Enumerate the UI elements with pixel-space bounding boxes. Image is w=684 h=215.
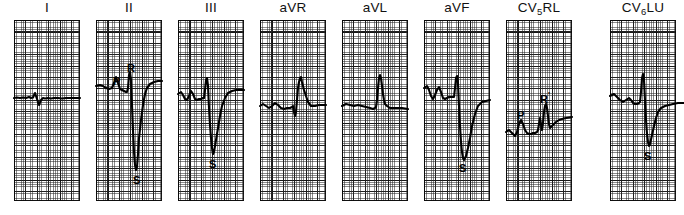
wave-label-text: R (127, 62, 135, 74)
ecg-waveform-path (506, 104, 572, 136)
ecg-trace (178, 20, 244, 201)
lead-label-text: aVL (363, 0, 388, 15)
lead-panel-cv5rl: CV5RLPR' (506, 0, 572, 215)
lead-label-text: CV (518, 0, 537, 15)
lead-panel-cv6lu: CV6LUS (610, 0, 676, 215)
ecg-trace (610, 20, 676, 201)
wave-label-text: P (517, 109, 524, 121)
lead-label-suffix: RL (542, 0, 560, 15)
ecg-waveform-path (610, 74, 684, 146)
lead-label: CV6LU (610, 0, 676, 17)
lead-label: CV5RL (506, 0, 572, 17)
ecg-trace (14, 20, 80, 201)
lead-label-text: aVF (444, 0, 469, 15)
lead-label: aVL (342, 0, 408, 16)
wave-label-s: S (459, 163, 466, 174)
wave-label-s: S (209, 159, 216, 170)
ecg-trace (96, 20, 162, 201)
lead-label: aVF (424, 0, 490, 16)
wave-label-text: S (133, 174, 140, 186)
wave-label-text: S (644, 150, 651, 162)
lead-label: II (96, 0, 162, 16)
wave-label-text: S (459, 162, 466, 174)
wave-label-r-prime: R' (540, 90, 550, 105)
lead-panel-iii: IIIS (178, 0, 244, 215)
ecg-trace (424, 20, 490, 201)
lead-label-text: III (205, 0, 217, 15)
lead-panel-avr: aVR (260, 0, 326, 215)
wave-label-text: R (540, 93, 548, 105)
ecg-trace (506, 20, 572, 201)
lead-panel-avl: aVL (342, 0, 408, 215)
ecg-waveform-path (178, 78, 244, 154)
wave-label-p: P (113, 76, 120, 87)
lead-label-text: CV (622, 0, 641, 15)
ecg-trace (260, 20, 326, 201)
ecg-waveform-path (260, 77, 326, 116)
wave-label-p: P (517, 110, 524, 121)
ecg-trace (342, 20, 408, 201)
lead-panel-ii: IIPRS (96, 0, 162, 215)
wave-label-text: P (113, 75, 120, 87)
lead-panel-avf: aVFS (424, 0, 490, 215)
wave-label-text: S (209, 158, 216, 170)
ecg-waveform-path (14, 93, 80, 105)
lead-label-suffix: LU (646, 0, 664, 15)
lead-label-text: I (45, 0, 49, 15)
lead-panel-i: I (14, 0, 80, 215)
lead-label-text: aVR (280, 0, 307, 15)
lead-label: aVR (260, 0, 326, 16)
wave-label-prime-mark: ' (548, 90, 550, 100)
wave-label-s: S (133, 175, 140, 186)
lead-label: I (14, 0, 80, 16)
ecg-waveform-path (96, 72, 162, 170)
lead-label-subscript: 6 (641, 6, 646, 17)
wave-label-r: R (127, 63, 135, 74)
ecg-figure: IIIPRSIIISaVRaVLaVFSCV5RLPR'CV6LUS (0, 0, 684, 215)
lead-label-text: II (125, 0, 133, 15)
wave-label-s: S (644, 151, 651, 162)
ecg-waveform-path (342, 75, 408, 109)
lead-label-subscript: 5 (537, 6, 542, 17)
lead-label: III (178, 0, 244, 16)
ecg-waveform-path (424, 76, 490, 160)
